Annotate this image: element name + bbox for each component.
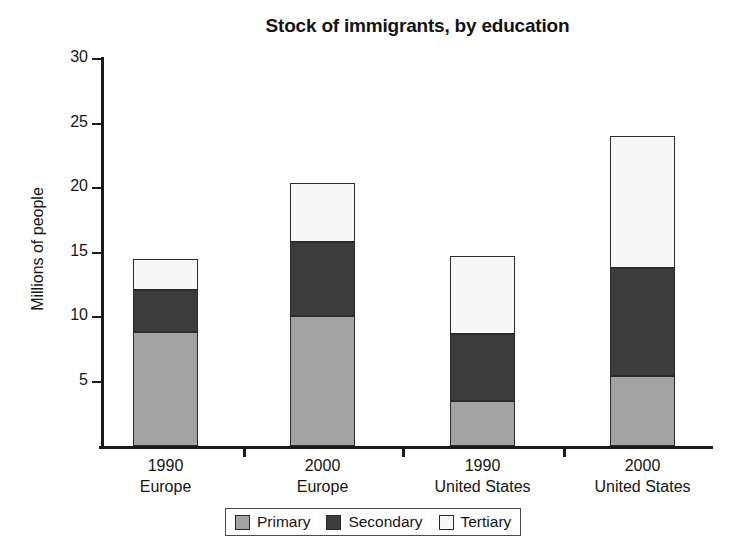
bar-segment-tertiary (290, 183, 355, 242)
bar-1990-europe (133, 259, 198, 446)
bar-1990-united-states (450, 256, 515, 446)
bar-segment-secondary (290, 242, 355, 316)
y-tick-10 (92, 316, 101, 318)
legend-entry-primary: Primary (235, 513, 310, 531)
bar-segment-primary (290, 316, 355, 446)
y-tick-label-15: 15 (42, 242, 88, 260)
bar-segment-secondary (133, 290, 198, 333)
y-axis-line (101, 57, 104, 449)
bar-segment-primary (133, 332, 198, 446)
legend-label-primary: Primary (257, 513, 310, 531)
bar-segment-secondary (450, 334, 515, 401)
y-tick-label-30: 30 (42, 48, 88, 66)
bar-segment-tertiary (450, 256, 515, 333)
x-label-year: 2000 (548, 455, 738, 476)
legend-swatch-primary-icon (235, 515, 250, 530)
y-tick-20 (92, 187, 101, 189)
bar-segment-tertiary (133, 259, 198, 290)
legend-swatch-tertiary-icon (439, 515, 454, 530)
chart-title: Stock of immigrants, by education (0, 15, 744, 37)
legend-entry-secondary: Secondary (326, 513, 422, 531)
y-tick-15 (92, 252, 101, 254)
legend-swatch-secondary-icon (326, 515, 341, 530)
bar-2000-united-states (610, 136, 675, 446)
bar-segment-primary (610, 376, 675, 446)
y-tick-30 (92, 58, 101, 60)
y-tick-label-25: 25 (42, 113, 88, 131)
y-tick-25 (92, 123, 101, 125)
x-label-region: United States (548, 476, 738, 497)
bar-segment-tertiary (610, 136, 675, 268)
y-tick-label-10: 10 (42, 306, 88, 324)
x-axis-line (99, 446, 713, 449)
legend-label-tertiary: Tertiary (461, 513, 512, 531)
x-label-group-4: 2000United States (548, 455, 738, 497)
y-tick-5 (92, 381, 101, 383)
legend-entry-tertiary: Tertiary (439, 513, 512, 531)
plot-area: 51015202530 (101, 57, 713, 449)
bar-segment-secondary (610, 268, 675, 376)
bar-2000-europe (290, 183, 355, 446)
y-tick-label-5: 5 (42, 371, 88, 389)
y-tick-label-20: 20 (42, 177, 88, 195)
bar-segment-primary (450, 401, 515, 446)
chart-legend: PrimarySecondaryTertiary (225, 508, 521, 536)
legend-label-secondary: Secondary (348, 513, 422, 531)
chart-figure: Stock of immigrants, by education Millio… (0, 0, 744, 559)
